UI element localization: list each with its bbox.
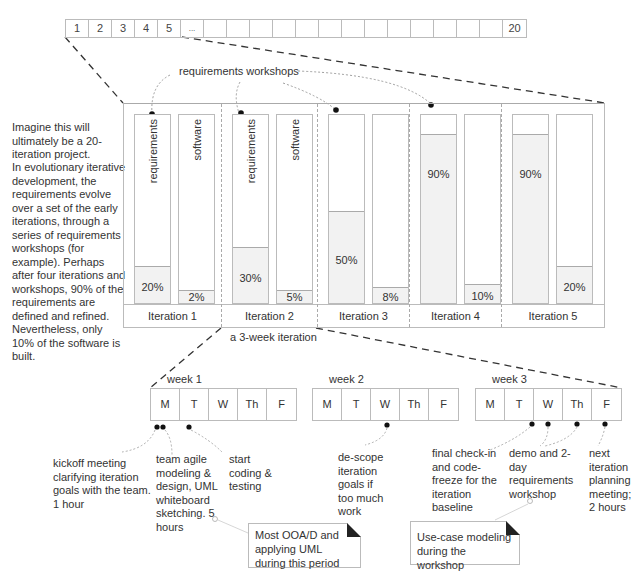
annotation-kickoff: kickoff meeting clarifying iteration goa… — [53, 457, 153, 511]
value-label: 30% — [233, 272, 268, 284]
week-days-row: MTWThF — [312, 388, 459, 421]
ruler-cell: 1 — [66, 20, 89, 37]
value-label: 20% — [135, 281, 170, 293]
value-label: 2% — [179, 291, 214, 303]
day-cell: T — [342, 389, 371, 420]
iteration-label: Iteration 2 — [222, 304, 317, 327]
annotation-descope: de-scope iteration goals if too much wor… — [338, 451, 388, 519]
ruler-cell — [388, 20, 411, 37]
intro-text-1: Imagine this will ultimately be a 20-ite… — [12, 121, 124, 162]
curve-descope — [365, 428, 387, 445]
week-label: week 1 — [167, 373, 202, 385]
day-cell: Th — [238, 389, 267, 420]
curve-modeling — [165, 430, 172, 455]
requirements-fill — [513, 134, 548, 303]
iteration-caption: a 3-week iteration — [230, 331, 317, 343]
requirements-bar: 50% — [328, 114, 365, 304]
ruler-cell — [480, 20, 503, 37]
software-bar: 8% — [372, 114, 409, 304]
value-label: 20% — [557, 281, 592, 293]
ruler-cell: 3 — [112, 20, 135, 37]
ruler-cell — [319, 20, 342, 37]
day-cell: Th — [400, 389, 429, 420]
software-vertical-label: software — [289, 119, 301, 161]
requirements-bar: 90% — [420, 114, 457, 304]
ruler-cell: 5 — [158, 20, 181, 37]
iteration-label: Iteration 5 — [502, 304, 604, 327]
value-label: 5% — [277, 291, 312, 303]
day-cell: W — [534, 389, 563, 420]
day-cell: F — [592, 389, 621, 420]
requirements-bar: 20%requirements — [134, 114, 171, 304]
intro-text-2: In evolutionary iterative development, t… — [12, 161, 127, 364]
annotation-coding: start coding & testing — [229, 453, 279, 494]
note-line-ooad — [218, 520, 248, 533]
note-fold-icon — [506, 521, 520, 535]
requirements-bar: 30%requirements — [232, 114, 269, 304]
iteration-label: Iteration 1 — [124, 304, 221, 327]
ruler-cell: 20 — [503, 20, 526, 37]
requirements-bar: 90% — [512, 114, 549, 304]
value-label: 90% — [421, 168, 456, 180]
iteration-label: Iteration 3 — [318, 304, 409, 327]
value-label: 50% — [329, 254, 364, 266]
note-ooad: Most OOA/D and applying UML during this … — [248, 523, 361, 568]
day-cell: T — [180, 389, 209, 420]
software-vertical-label: software — [191, 119, 203, 161]
iteration-column: 50%8%Iteration 3 — [317, 104, 409, 327]
week-days-row: MTWThF — [150, 388, 297, 421]
workshop-curve-4 — [298, 71, 431, 104]
ruler-cell — [250, 20, 273, 37]
day-cell: W — [209, 389, 238, 420]
day-cell: M — [476, 389, 505, 420]
annotation-planning: next iteration planning meeting; 2 hours — [589, 447, 634, 515]
day-cell: M — [313, 389, 342, 420]
ruler-cell — [365, 20, 388, 37]
iteration-column: 20%requirements2%softwareIteration 1 — [124, 104, 221, 327]
dot-coding — [186, 424, 191, 429]
day-cell: Th — [563, 389, 592, 420]
day-cell: F — [429, 389, 458, 420]
note-ooad-text: Most OOA/D and applying UML during this … — [255, 529, 339, 569]
software-bar: 10% — [464, 114, 501, 304]
dot-modeling — [160, 424, 165, 429]
requirements-vertical-label: requirements — [147, 119, 159, 183]
week-label: week 2 — [329, 373, 364, 385]
curve-coding — [191, 430, 222, 452]
ruler-cell — [296, 20, 319, 37]
day-cell: T — [505, 389, 534, 420]
dot-freeze — [529, 421, 534, 426]
iteration-column: 90%10%Iteration 4 — [409, 104, 501, 327]
curve-kickoff — [122, 430, 155, 452]
curve-planning — [598, 427, 605, 446]
value-label: 90% — [513, 168, 548, 180]
day-cell: W — [371, 389, 400, 420]
zoom-line-left — [65, 37, 123, 103]
dot-kickoff — [154, 424, 159, 429]
software-bar: 5%software — [276, 114, 313, 304]
dot-demo-2 — [574, 421, 579, 426]
week-days-row: MTWThF — [475, 388, 622, 421]
iteration-label: Iteration 4 — [410, 304, 501, 327]
iteration-ruler: 12345...20 — [65, 19, 527, 38]
ruler-cell — [342, 20, 365, 37]
ruler-cell: 4 — [135, 20, 158, 37]
ruler-cell — [411, 20, 434, 37]
dot-demo — [545, 421, 550, 426]
curve-demo — [540, 427, 548, 446]
day-cell: M — [151, 389, 180, 420]
curve-demo-2 — [545, 427, 577, 446]
annotation-modeling: team agile modeling & design, UML whiteb… — [156, 453, 220, 534]
iteration-column: 30%requirements5%softwareIteration 2 — [221, 104, 317, 327]
ruler-cell — [204, 20, 227, 37]
dot-descope — [384, 422, 389, 427]
software-bar: 2%software — [178, 114, 215, 304]
requirements-fill — [421, 134, 456, 303]
ruler-cell — [227, 20, 250, 37]
ruler-cell: ... — [181, 20, 204, 37]
ruler-cell: 2 — [89, 20, 112, 37]
value-label: 10% — [465, 290, 500, 302]
week-label: week 3 — [492, 373, 527, 385]
value-label: 8% — [373, 291, 408, 303]
iterations-frame: 20%requirements2%softwareIteration 130%r… — [123, 103, 605, 328]
